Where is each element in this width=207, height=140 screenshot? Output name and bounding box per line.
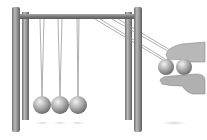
top-bar [18, 14, 138, 19]
left-back-post [22, 12, 29, 120]
right-front-post [134, 7, 142, 132]
held-ball-2 [176, 59, 192, 75]
floor-shadows [33, 121, 190, 126]
hanging-balls [33, 96, 87, 114]
left-front-post [12, 7, 20, 132]
strings [40, 19, 182, 96]
newtons-cradle-illustration [0, 0, 207, 140]
held-ball-1 [158, 59, 174, 75]
